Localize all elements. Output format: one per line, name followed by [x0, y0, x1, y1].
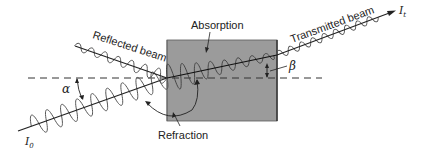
transmitted-intensity-label: It [398, 4, 406, 19]
refraction-label: Refraction [158, 129, 208, 141]
medium-box [167, 40, 277, 121]
transmitted-arrow-icon [387, 11, 396, 17]
light-interaction-diagram: Absorption Reflected beam Transmitted be… [0, 0, 422, 151]
incident-intensity-label: I0 [24, 135, 34, 150]
alpha-arrow-top-icon [75, 78, 79, 83]
reflected-beam-label: Reflected beam [91, 28, 168, 63]
diagram-canvas: Absorption Reflected beam Transmitted be… [0, 0, 422, 151]
refraction-arrow-left-icon [145, 101, 151, 106]
beta-label: β [288, 59, 296, 73]
absorption-label: Absorption [191, 19, 244, 31]
alpha-label: α [62, 82, 70, 96]
alpha-arrow-bottom-icon [79, 95, 84, 100]
incident-beam-line [18, 78, 167, 131]
